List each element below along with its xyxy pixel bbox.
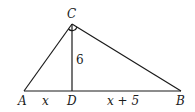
segment-ad-label: x (42, 94, 49, 108)
vertex-label-b: B (175, 94, 185, 108)
triangle-diagram: C A D B 6 x x + 5 (0, 0, 195, 112)
vertex-label-c: C (67, 7, 76, 21)
vertex-label-a: A (17, 94, 27, 108)
segment-cb (72, 24, 181, 91)
segment-db-label: x + 5 (107, 94, 139, 108)
segment-ac (24, 24, 72, 91)
vertex-label-d: D (66, 94, 77, 108)
altitude-label: 6 (76, 53, 84, 67)
